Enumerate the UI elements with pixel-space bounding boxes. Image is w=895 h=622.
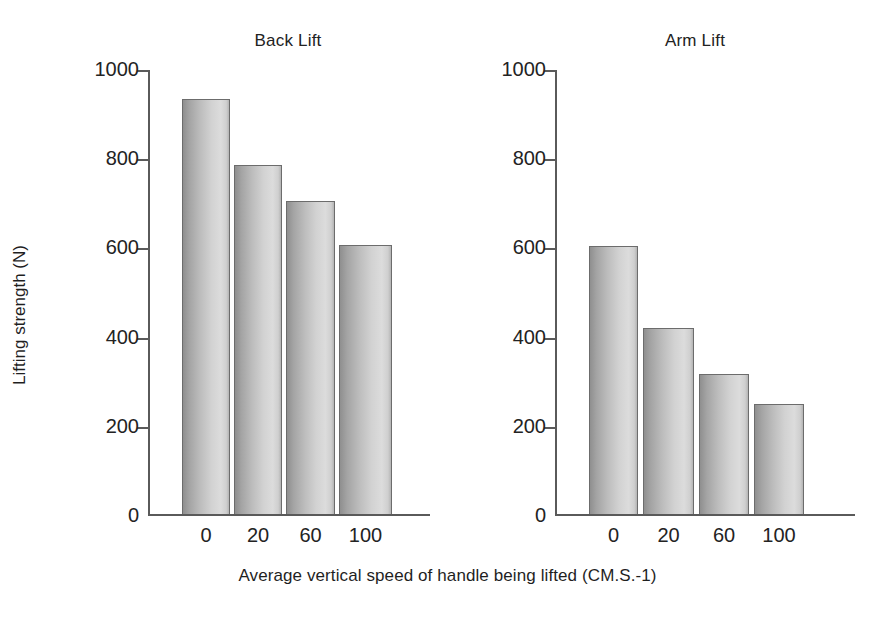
bar-back-lift-20[interactable]: 20	[234, 165, 282, 514]
plot-area-back-lift: 1000 800 600 400 200 0	[148, 70, 430, 516]
bar-arm-lift-60[interactable]: 60	[699, 374, 749, 515]
y-tick-label: 0	[128, 504, 139, 526]
y-tick-label: 0	[535, 504, 546, 526]
panel-arm-lift: Arm Lift 1000 800 600 400 200	[407, 0, 895, 622]
x-tick-label: 20	[657, 524, 679, 546]
bar-back-lift-100[interactable]: 100	[339, 245, 392, 514]
bar-back-lift-0[interactable]: 0	[182, 99, 230, 514]
bar-group-back-lift: 0 20 60 100	[150, 70, 430, 514]
y-tick-label: 200	[513, 415, 546, 437]
y-tick-label: 200	[106, 415, 139, 437]
y-tick-label: 800	[106, 147, 139, 169]
figure-bar-charts: Back Lift 1000 800 600 400 200	[0, 0, 895, 622]
x-tick-label: 0	[200, 524, 211, 546]
x-tick-label: 60	[713, 524, 735, 546]
panel-title-back-lift: Back Lift	[208, 31, 368, 51]
bar-group-arm-lift: 0 20 60 100	[557, 70, 855, 514]
x-tick-label: 0	[608, 524, 619, 546]
bar-back-lift-60[interactable]: 60	[286, 201, 335, 514]
panel-back-lift: Back Lift 1000 800 600 400 200	[0, 0, 450, 622]
y-tick-label: 600	[513, 236, 546, 258]
y-tick-label: 400	[513, 326, 546, 348]
bar-arm-lift-0[interactable]: 0	[589, 246, 638, 514]
x-tick-label: 100	[349, 524, 382, 546]
y-axis-title: Lifting strength (N)	[10, 195, 30, 435]
x-axis-line-arm	[555, 514, 855, 516]
bar-arm-lift-100[interactable]: 100	[754, 404, 804, 514]
y-tick-label: 1000	[502, 58, 547, 80]
panel-title-arm-lift: Arm Lift	[615, 31, 775, 51]
y-tick-label: 800	[513, 147, 546, 169]
x-tick-label: 60	[299, 524, 321, 546]
x-axis-title: Average vertical speed of handle being l…	[0, 566, 895, 586]
y-tick-label: 400	[106, 326, 139, 348]
bar-arm-lift-20[interactable]: 20	[643, 328, 694, 514]
x-tick-label: 20	[247, 524, 269, 546]
x-tick-label: 100	[762, 524, 795, 546]
y-tick-label: 1000	[95, 58, 140, 80]
plot-area-arm-lift: 1000 800 600 400 200 0	[555, 70, 855, 516]
x-axis-line-back	[148, 514, 430, 516]
y-tick-label: 600	[106, 236, 139, 258]
